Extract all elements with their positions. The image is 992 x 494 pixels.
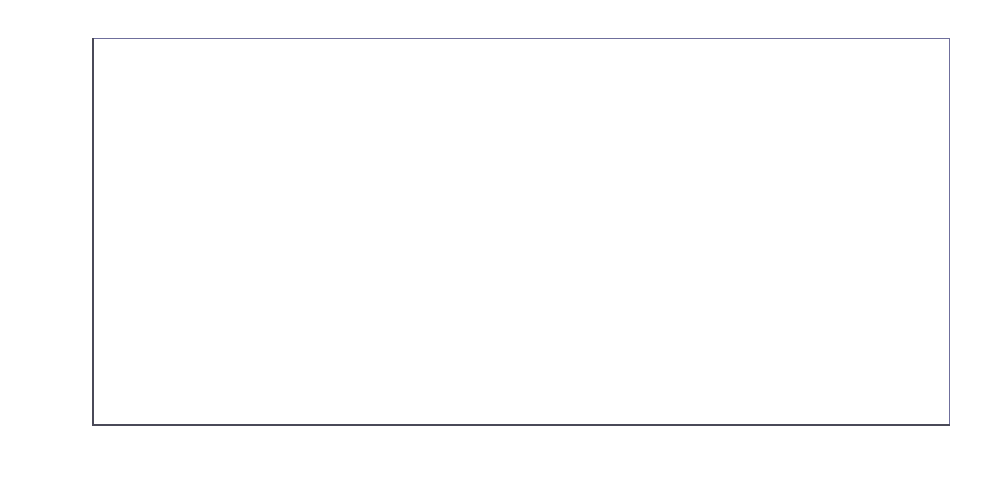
series-layer [0,0,992,494]
line-chart [0,0,992,494]
